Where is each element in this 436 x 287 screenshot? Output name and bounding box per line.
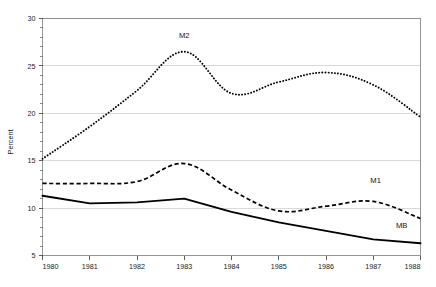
x-tick-label: 1981 xyxy=(82,262,98,271)
y-tick-label: 20 xyxy=(28,109,36,118)
y-axis-title: Percent xyxy=(6,130,15,155)
x-tick-label: 1988 xyxy=(405,262,421,271)
x-tick-label: 1980 xyxy=(43,262,59,271)
x-tick-label: 1984 xyxy=(224,262,240,271)
series-label-m2: M2 xyxy=(179,31,190,40)
series-label-mb: MB xyxy=(396,221,407,230)
x-tick-label: 1987 xyxy=(365,262,381,271)
y-tick-label: 25 xyxy=(28,62,36,71)
chart-container: 51015202530 1980198119821983198419851986… xyxy=(0,0,436,287)
y-tick-label: 30 xyxy=(28,14,36,23)
x-tick-label: 1983 xyxy=(176,262,192,271)
y-axis-title-group: Percent xyxy=(6,130,15,155)
x-tick-label: 1986 xyxy=(318,262,334,271)
y-tick-label: 5 xyxy=(32,251,36,260)
x-tick-label: 1985 xyxy=(271,262,287,271)
line-chart: 51015202530 1980198119821983198419851986… xyxy=(0,0,436,287)
series-label-m1: M1 xyxy=(370,176,381,185)
y-tick-label: 10 xyxy=(28,204,36,213)
y-tick-label: 15 xyxy=(28,156,36,165)
x-tick-label: 1982 xyxy=(129,262,145,271)
